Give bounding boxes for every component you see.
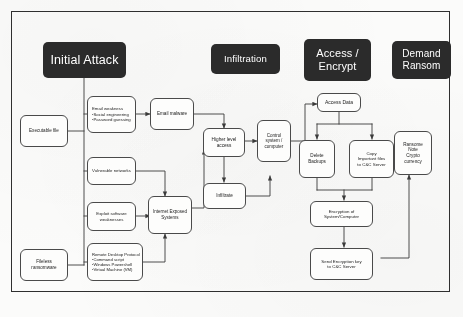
node-email-malware[interactable]: Email malware bbox=[150, 98, 194, 130]
node-encryption-of-system[interactable]: Encryption of System/Computer bbox=[310, 201, 373, 227]
node-access-data[interactable]: Access Data bbox=[317, 93, 361, 112]
node-label-control-line3: computer bbox=[260, 144, 288, 150]
node-remote-desktop-protocol[interactable]: Remote Desktop Protocol •Command script … bbox=[87, 243, 143, 281]
node-label-higher-level-line2: access bbox=[206, 143, 242, 149]
node-label-delete-backups-line2: Backups bbox=[302, 159, 332, 165]
node-internet-exposed-systems[interactable]: Internet Exposed Systems bbox=[148, 196, 192, 234]
node-label-internet-exposed-line2: Systems bbox=[151, 215, 189, 221]
phase-banner-access-encrypt[interactable]: Access / Encrypt bbox=[304, 39, 371, 81]
phase-label-initial-attack: Initial Attack bbox=[50, 53, 118, 68]
scanned-page: Initial Attack Infiltration Access / Enc… bbox=[0, 0, 463, 317]
node-label-email-malware: Email malware bbox=[153, 111, 191, 117]
node-send-encryption-key[interactable]: Send Encryption key to C&C Server bbox=[310, 248, 373, 280]
phase-banner-initial-attack[interactable]: Initial Attack bbox=[43, 42, 126, 78]
node-item-remote-desktop-2: •Virtual Machine (VM) bbox=[91, 267, 140, 272]
node-label-vulnerable-networks: Vulnerable networks bbox=[90, 168, 133, 173]
node-label-infiltrate: Infiltrate bbox=[206, 193, 243, 199]
node-higher-level-access[interactable]: Higher level access bbox=[203, 128, 245, 157]
node-email-weakness[interactable]: Email weakness •Social engineering •Pass… bbox=[87, 96, 136, 133]
node-label-sendkey-line2: to C&C Server bbox=[313, 264, 370, 270]
node-exploit-software-weaknesses[interactable]: Exploit software weaknesses bbox=[87, 202, 136, 231]
phase-label-demand-ransom-line2: Ransom bbox=[403, 60, 441, 72]
node-label-ransom-note-line4: currency bbox=[397, 159, 429, 165]
node-control-system-computer[interactable]: Control system / computer bbox=[257, 120, 291, 162]
node-delete-backups[interactable]: Delete Backups bbox=[299, 140, 335, 178]
phase-label-access-encrypt-line1: Access / bbox=[316, 47, 358, 60]
node-label-encryption-line2: System/Computer bbox=[313, 214, 370, 220]
node-ransom-note[interactable]: Ransome Note Crypto currency bbox=[394, 131, 432, 175]
phase-banner-demand-ransom[interactable]: Demand Ransom bbox=[392, 41, 451, 79]
node-label-fileless-ransomware: Fileless ransomware bbox=[23, 259, 65, 270]
node-executable-file[interactable]: Executable file bbox=[20, 115, 68, 147]
node-vulnerable-networks[interactable]: Vulnerable networks bbox=[87, 157, 136, 185]
phase-label-access-encrypt-line2: Encrypt bbox=[319, 60, 357, 73]
node-label-exploit-software-line2: weaknesses bbox=[90, 217, 133, 222]
node-copy-important-files[interactable]: Copy Important files to C&C Server bbox=[349, 140, 394, 178]
node-label-copy-files-line3: to C&C Server bbox=[352, 162, 391, 168]
phase-label-infiltration: Infiltration bbox=[224, 53, 267, 64]
node-label-access-data: Access Data bbox=[320, 99, 358, 105]
phase-label-demand-ransom-line1: Demand bbox=[402, 48, 440, 60]
node-fileless-ransomware[interactable]: Fileless ransomware bbox=[20, 249, 68, 281]
phase-banner-infiltration[interactable]: Infiltration bbox=[211, 44, 280, 74]
node-label-executable-file: Executable file bbox=[23, 128, 65, 134]
node-infiltrate[interactable]: Infiltrate bbox=[203, 183, 246, 209]
node-item-email-weakness-1: •Password guessing bbox=[91, 117, 133, 122]
